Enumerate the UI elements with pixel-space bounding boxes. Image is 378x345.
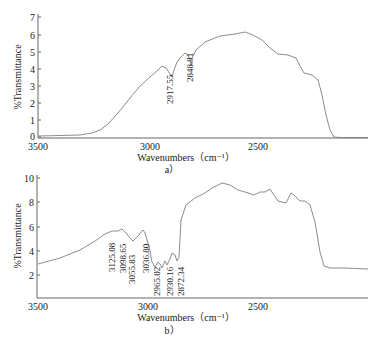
chart-a-ytick-7: 7: [30, 12, 35, 23]
chart-b-xtick-3000: 3000: [138, 301, 158, 312]
chart-a-ylabel: %Transmittance: [12, 44, 23, 110]
chart-b-spectrum-line: [38, 183, 368, 269]
chart-a-xtick-3500: 3500: [28, 141, 48, 152]
chart-a-ytick-6: 6: [30, 30, 35, 41]
chart-b-ytick-8: 8: [29, 197, 34, 208]
chart-a-peak-2917: 2917.55: [165, 74, 175, 104]
chart-a-ytick-2: 2: [30, 98, 35, 109]
chart-b-ylabel: %Transmittance: [12, 203, 23, 269]
chart-b-caption: b）: [165, 325, 180, 336]
chart-a-ytick-3: 3: [30, 81, 35, 92]
chart-a-ytick-5: 5: [30, 47, 35, 58]
chart-b-peak-3125: 3125.08: [107, 242, 117, 272]
chart-a-ytick-1: 1: [30, 115, 35, 126]
chart-a: 0 1 2 3 4 5 6 7 3500 3000 2500 %Transmit…: [12, 12, 368, 175]
chart-b-peak-2930: 2930.16: [165, 266, 175, 296]
chart-a-ytick-4: 4: [30, 64, 35, 75]
chart-b: 2 4 6 8 10 3500 3000 2500 %Transmittance…: [12, 173, 368, 336]
chart-a-xtick-3000: 3000: [140, 141, 160, 152]
chart-b-xtick-2500: 2500: [248, 301, 268, 312]
chart-b-ytick-10: 10: [24, 173, 34, 184]
chart-b-peak-3055: 3055.83: [127, 254, 137, 284]
chart-b-ytick-6: 6: [29, 222, 34, 233]
chart-b-ytick-2: 2: [29, 270, 34, 281]
chart-a-xtick-2500: 2500: [248, 141, 268, 152]
chart-b-peak-3036: 3036.80: [141, 243, 151, 273]
chart-b-xlabel: Wavenumbers（cm⁻¹）: [137, 312, 234, 323]
chart-a-xlabel: Wavenumbers（cm⁻¹）: [137, 152, 234, 163]
chart-a-spectrum-line: [38, 32, 368, 138]
chart-b-peak-2872: 2872.34: [176, 266, 186, 296]
chart-a-caption: a）: [165, 164, 179, 175]
chart-b-peak-2965: 2965.02: [152, 267, 162, 296]
chart-a-peak-2848: 2848.91: [185, 53, 195, 82]
ir-spectra-figure: 0 1 2 3 4 5 6 7 3500 3000 2500 %Transmit…: [0, 0, 378, 345]
chart-b-ytick-4: 4: [29, 246, 34, 257]
chart-b-xtick-3500: 3500: [28, 301, 48, 312]
